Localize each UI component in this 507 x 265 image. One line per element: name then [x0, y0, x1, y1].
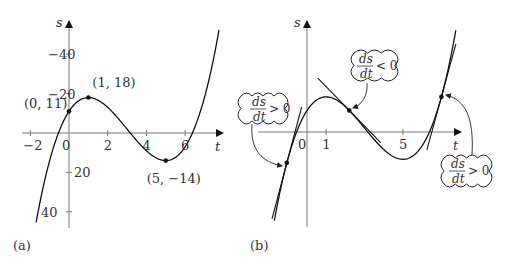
t-axis-label: t	[215, 139, 221, 154]
tangent-point	[347, 108, 352, 113]
figure: s t −202464020−20−40 (0, 11)(1, 18)(5, −…	[0, 0, 507, 265]
svg-text:> 0: > 0	[468, 164, 490, 178]
x-tick-label: −2	[23, 138, 42, 153]
y-tick-label: 40	[41, 205, 58, 220]
x-tick-label: 2	[104, 138, 112, 153]
annotation-right: ds dt > 0	[441, 95, 492, 187]
svg-text:ds: ds	[359, 52, 373, 66]
marked-point	[163, 158, 168, 163]
panel-b: s t 015 ds dt > 0 ds dt < 0 ds dt > 0	[238, 15, 492, 253]
annotation-left: ds dt > 0	[238, 93, 291, 166]
y-tick-label: 20	[74, 165, 91, 180]
svg-text:> 0: > 0	[269, 102, 291, 116]
x-tick-label: 5	[399, 137, 407, 152]
arrow-middle	[353, 83, 367, 108]
x-tick-label: 0	[298, 137, 306, 152]
point-label: (0, 11)	[24, 96, 67, 111]
tangent-point	[439, 95, 444, 100]
arrow-left	[252, 124, 282, 166]
s-axis-label: s	[56, 15, 63, 30]
marked-point	[67, 109, 72, 114]
tangent-point	[285, 161, 290, 166]
panel-label-b: (b)	[250, 238, 268, 253]
s-axis-label: s	[294, 15, 301, 30]
t-axis-label: t	[453, 138, 459, 153]
panel-label-a: (a)	[13, 238, 31, 253]
arrow-right	[446, 95, 472, 155]
point-label: (5, −14)	[147, 171, 201, 186]
svg-text:ds: ds	[252, 95, 266, 109]
point-label: (1, 18)	[92, 75, 135, 90]
svg-text:dt: dt	[253, 110, 266, 124]
x-tick-label: 1	[322, 137, 330, 152]
panel-a: s t −202464020−20−40 (0, 11)(1, 18)(5, −…	[13, 15, 222, 253]
y-tick-label: −40	[48, 47, 75, 62]
svg-text:dt: dt	[360, 67, 373, 81]
annotation-middle: ds dt < 0	[351, 50, 398, 108]
x-tick-label: 0	[62, 138, 70, 153]
svg-text:ds: ds	[451, 157, 465, 171]
svg-text:dt: dt	[452, 172, 465, 186]
svg-text:< 0: < 0	[376, 59, 398, 73]
marked-point	[86, 95, 91, 100]
